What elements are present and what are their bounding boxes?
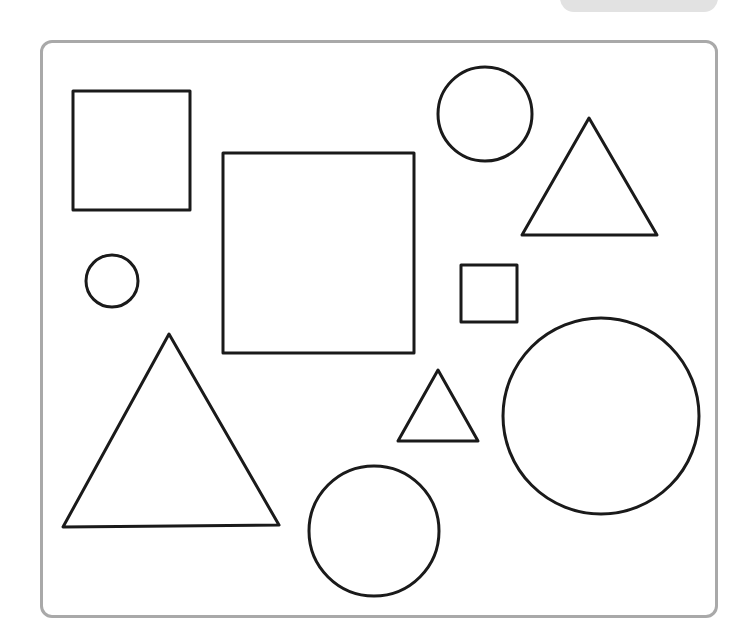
triangle-shape — [522, 118, 657, 235]
circle-shape — [438, 67, 532, 161]
square-shape — [73, 91, 190, 210]
circle-shape — [503, 318, 699, 514]
square-shape — [223, 153, 414, 353]
circle-shape — [309, 466, 439, 596]
circle-shape — [86, 255, 138, 307]
triangle-shape — [398, 370, 478, 441]
triangle-shape — [63, 334, 279, 527]
square-shape — [461, 265, 517, 322]
shapes-canvas — [0, 0, 748, 644]
